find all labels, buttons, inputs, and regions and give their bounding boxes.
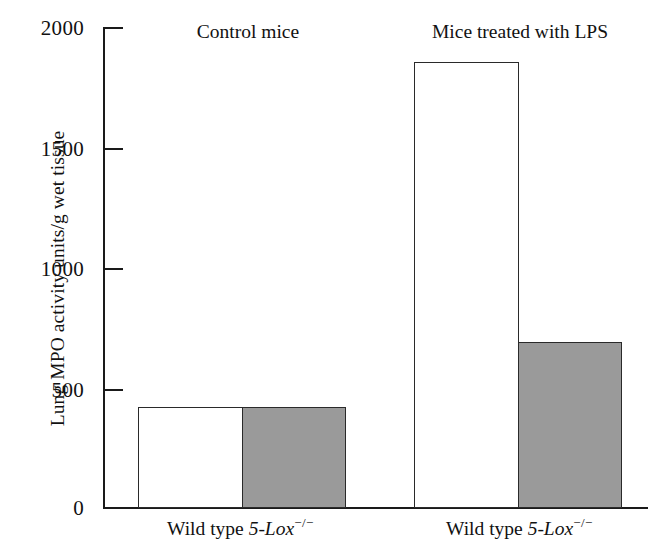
- y-tick-1500: [103, 148, 123, 150]
- y-tick-500: [103, 389, 123, 391]
- x-label-wild-type-control: Wild type: [167, 518, 244, 539]
- y-tick-label-2000-wrap: 2000: [0, 17, 94, 39]
- group-title-treated: Mice treated with LPS: [400, 22, 640, 42]
- y-tick-0: [103, 507, 123, 509]
- bar-treated-wild-type: [414, 62, 519, 508]
- y-tick-label-0-wrap: 0: [0, 497, 94, 519]
- bar-treated-5lox-ko: [518, 342, 622, 508]
- x-label-5lox-superscript-treated: −/−: [573, 515, 593, 530]
- group-title-control: Control mice: [158, 22, 338, 42]
- y-tick-label-500: 500: [0, 380, 84, 401]
- x-label-5lox-control: 5-Lox: [249, 518, 295, 539]
- bar-control-5lox-ko: [242, 407, 346, 508]
- y-tick-label-500-wrap: 500: [0, 379, 94, 401]
- x-label-5lox-treated: 5-Lox: [528, 518, 574, 539]
- y-tick-1000: [103, 268, 123, 270]
- y-tick-label-1000: 1000: [0, 259, 84, 280]
- bar-control-wild-type: [138, 407, 243, 508]
- y-tick-label-0: 0: [0, 498, 84, 519]
- y-tick-label-2000: 2000: [0, 18, 84, 39]
- x-label-control-group: Wild type 5-Lox−/−: [113, 516, 368, 538]
- y-tick-label-1000-wrap: 1000: [0, 258, 94, 280]
- x-label-treated-group: Wild type 5-Lox−/−: [392, 516, 647, 538]
- x-label-wild-type-treated: Wild type: [446, 518, 523, 539]
- x-label-5lox-superscript-control: −/−: [294, 515, 314, 530]
- y-tick-2000: [103, 27, 123, 29]
- y-tick-label-1500: 1500: [0, 139, 84, 160]
- chart-figure: Lung MPO activity units/g wet tissue 200…: [0, 0, 651, 557]
- y-tick-label-1500-wrap: 1500: [0, 138, 94, 160]
